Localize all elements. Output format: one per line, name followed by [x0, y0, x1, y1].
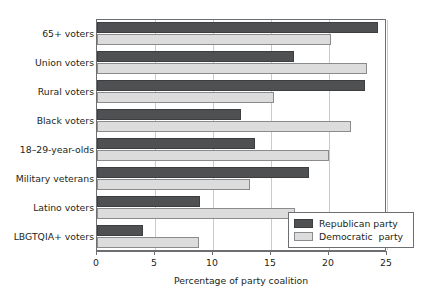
bar-democratic — [97, 34, 331, 45]
bar-group — [97, 49, 385, 78]
x-tick-label: 15 — [250, 257, 290, 268]
x-tick-mark — [212, 251, 213, 255]
legend-item: Republican party — [294, 217, 408, 230]
y-axis-label: Black voters — [0, 116, 94, 126]
bar-republican — [97, 80, 365, 91]
x-tick-label: 10 — [192, 257, 232, 268]
bar-democratic — [97, 237, 199, 248]
x-tick-label: 0 — [76, 257, 116, 268]
bar-democratic — [97, 121, 351, 132]
x-tick-label: 25 — [366, 257, 406, 268]
x-tick-mark — [154, 251, 155, 255]
legend-label: Republican party — [319, 218, 398, 229]
bar-republican — [97, 109, 241, 120]
bar-democratic — [97, 63, 367, 74]
bar-republican — [97, 138, 255, 149]
legend-swatch-icon — [294, 219, 313, 228]
bar-group — [97, 136, 385, 165]
y-axis-label: Military veterans — [0, 174, 94, 184]
bar-democratic — [97, 179, 250, 190]
x-axis-line — [96, 251, 386, 252]
x-tick-mark — [386, 251, 387, 255]
x-tick-mark — [328, 251, 329, 255]
bar-republican — [97, 167, 309, 178]
bar-republican — [97, 51, 294, 62]
bar-republican — [97, 225, 143, 236]
y-axis-label: Latino voters — [0, 203, 94, 213]
bar-group — [97, 165, 385, 194]
bar-republican — [97, 196, 200, 207]
x-tick-mark — [96, 251, 97, 255]
bar-democratic — [97, 208, 295, 219]
bar-group — [97, 20, 385, 49]
x-tick-mark — [270, 251, 271, 255]
legend-swatch-icon — [294, 232, 313, 241]
bar-republican — [97, 22, 378, 33]
bar-group — [97, 107, 385, 136]
x-axis-title: Percentage of party coalition — [96, 275, 386, 286]
y-axis-label: 18–29-year-olds — [0, 145, 94, 155]
y-axis-label: LBGTQIA+ voters — [0, 232, 94, 242]
y-axis-label: 65+ voters — [0, 29, 94, 39]
y-axis-label: Union voters — [0, 58, 94, 68]
legend-label: Democratic party — [319, 231, 403, 242]
x-tick-label: 5 — [134, 257, 174, 268]
horizontal-bar-chart: 65+ votersUnion votersRural votersBlack … — [0, 0, 425, 303]
bar-group — [97, 78, 385, 107]
chart-legend: Republican partyDemocratic party — [288, 212, 414, 248]
x-tick-label: 20 — [308, 257, 348, 268]
bar-democratic — [97, 92, 274, 103]
legend-item: Democratic party — [294, 230, 408, 243]
y-axis-label: Rural voters — [0, 87, 94, 97]
bar-democratic — [97, 150, 329, 161]
